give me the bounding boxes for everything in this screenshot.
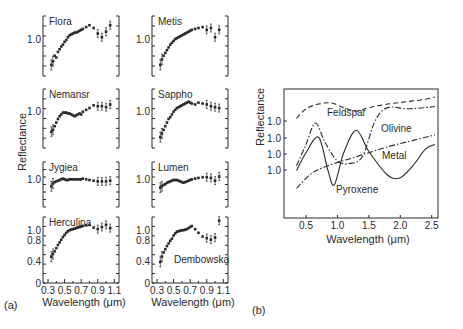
- y-tick-label: 1.0: [267, 116, 281, 127]
- series-metal: [297, 135, 435, 188]
- data-point: [85, 26, 88, 29]
- series-pyroxene: [297, 130, 435, 185]
- x-tick-label: 1.1: [107, 285, 121, 296]
- series-label-olivine: Olivine: [381, 123, 412, 134]
- panel-b-ylabel: Reflectance: [254, 88, 266, 146]
- data-point: [162, 129, 165, 132]
- y-tick-label: 1.0: [267, 133, 281, 144]
- data-point: [194, 103, 197, 106]
- data-point: [194, 177, 197, 180]
- y-tick-label: 0: [35, 278, 41, 289]
- subplot-name: Lumen: [158, 162, 189, 173]
- data-point: [60, 238, 63, 241]
- data-point: [167, 242, 170, 245]
- subplot-sappho: 1.0Sappho: [136, 89, 228, 148]
- data-point: [164, 52, 167, 55]
- y-tick-label: 1.0: [267, 149, 281, 160]
- subplot-dembowska: 0.30.50.70.91.100.40.81.0Dembowska: [136, 217, 231, 296]
- data-point: [53, 250, 56, 253]
- subplot-jygiea: 1.0Jygiea: [27, 162, 119, 207]
- data-point: [55, 121, 58, 124]
- data-point: [57, 51, 60, 54]
- data-point: [62, 43, 65, 46]
- subplot-name: Sappho: [158, 89, 193, 100]
- data-point: [169, 116, 172, 119]
- data-point: [171, 237, 174, 240]
- subplot-name: Dembowska: [174, 254, 229, 265]
- series-label-metal: Metal: [382, 150, 406, 161]
- x-tick-label: 1.5: [362, 220, 376, 231]
- y-tick-label: 0.8: [136, 235, 150, 246]
- y-tick-label: 1.0: [27, 34, 41, 45]
- subplot-name: Jygiea: [49, 162, 78, 173]
- x-tick-label: 0.9: [91, 285, 105, 296]
- subplot-name: Flora: [49, 16, 72, 27]
- subplot-nemansr: 1.0Nemansr: [27, 89, 119, 148]
- panel-a: 1.0Flora1.0Nemansr1.0Jygiea0.30.50.70.91…: [27, 16, 231, 296]
- data-point: [197, 101, 200, 104]
- data-point: [92, 104, 95, 107]
- data-point: [201, 176, 204, 179]
- data-point: [162, 251, 165, 254]
- data-point: [58, 48, 61, 51]
- x-tick-label: 0.5: [58, 285, 72, 296]
- data-point: [167, 46, 170, 49]
- data-point: [82, 110, 85, 113]
- panel-a-label: (a): [4, 299, 17, 311]
- data-point: [82, 177, 85, 180]
- data-point: [201, 102, 204, 105]
- panel-b: 0.51.01.52.02.51.01.01.01.0FeldsparOlivi…: [267, 89, 439, 231]
- data-point: [191, 29, 194, 32]
- y-tick-label: 1.0: [136, 106, 150, 117]
- data-point: [92, 179, 95, 182]
- panel-a-ylabel: Reflectance: [16, 113, 28, 171]
- data-point: [194, 28, 197, 31]
- figure: 1.0Flora1.0Nemansr1.0Jygiea0.30.50.70.91…: [0, 0, 463, 329]
- panel-a-xlabel-right: Wavelength (μm): [151, 296, 235, 308]
- y-tick-label: 0.4: [27, 256, 41, 267]
- data-point: [92, 27, 95, 30]
- x-tick-label: 2.5: [425, 220, 439, 231]
- panel-a-xlabel-left: Wavelength (μm): [42, 296, 126, 308]
- x-tick-label: 0.5: [167, 285, 181, 296]
- panel-b-label: (b): [252, 304, 265, 316]
- y-tick-label: 1.0: [136, 225, 150, 236]
- data-point: [166, 245, 169, 248]
- x-tick-label: 1.1: [216, 285, 230, 296]
- subplot-metis: 1.0Metis: [136, 16, 228, 76]
- data-point: [201, 235, 204, 238]
- x-tick-label: 2.0: [393, 220, 407, 231]
- y-tick-label: 1.0: [136, 174, 150, 185]
- y-tick-label: 1.0: [27, 174, 41, 185]
- data-point: [88, 224, 91, 227]
- subplot-lumen: 1.0Lumen: [136, 162, 228, 207]
- panel-b-xlabel: Wavelength (μm): [326, 233, 410, 245]
- y-tick-label: 1.0: [136, 34, 150, 45]
- y-tick-label: 1.0: [27, 106, 41, 117]
- data-point: [53, 125, 56, 128]
- data-point: [65, 39, 68, 42]
- data-point: [58, 241, 61, 244]
- data-point: [85, 109, 88, 112]
- data-point: [164, 248, 167, 251]
- data-point: [82, 225, 85, 228]
- data-point: [164, 125, 167, 128]
- y-tick-label: 1.0: [27, 225, 41, 236]
- data-point: [55, 56, 58, 59]
- x-tick-label: 0.5: [299, 220, 313, 231]
- data-point: [197, 232, 200, 235]
- y-tick-label: 0: [144, 278, 150, 289]
- data-point: [166, 49, 169, 52]
- data-point: [197, 27, 200, 30]
- data-point: [55, 247, 58, 250]
- data-point: [85, 224, 88, 227]
- x-tick-label: 0.7: [183, 285, 197, 296]
- data-point: [88, 24, 91, 27]
- x-tick-label: 1.0: [330, 220, 344, 231]
- subplot-herculina: 0.30.50.70.91.100.40.81.0Herculina: [27, 217, 122, 296]
- data-point: [80, 113, 83, 116]
- subplot-name: Metis: [158, 16, 182, 27]
- data-point: [92, 226, 95, 229]
- series-label-pyroxene: Pyroxene: [336, 184, 379, 195]
- x-tick-label: 0.9: [200, 285, 214, 296]
